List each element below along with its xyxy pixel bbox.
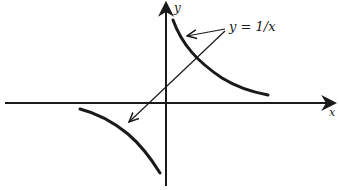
hyperbola-branch-third-quadrant	[80, 109, 160, 173]
leader-arrow-upper	[187, 29, 225, 36]
equation-label: y = 1/x	[229, 20, 275, 33]
diagram-canvas	[0, 0, 339, 190]
x-axis-label: x	[329, 107, 335, 118]
hyperbola-diagram: y = 1/x y x	[0, 0, 339, 190]
leader-arrow-lower	[129, 31, 225, 122]
y-axis-label: y	[174, 2, 181, 14]
